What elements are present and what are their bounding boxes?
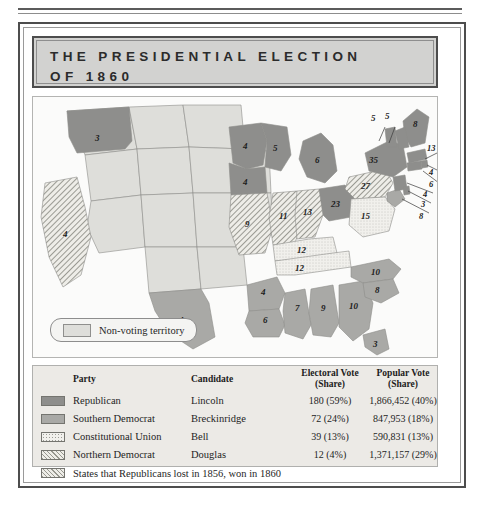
legend-party-name: Constitutional Union [73,428,191,446]
legend-header-row: Party Candidate Electoral Vote (Share) P… [33,366,437,392]
label-florida: 3 [372,339,378,349]
table-row: States that Republicans lost in 1856, wo… [33,464,437,482]
legend-swatch-cell [33,410,73,428]
state-arkansas [247,277,285,311]
label-indiana: 13 [303,207,313,217]
top-rule-thin [18,13,462,14]
flipped-states-swatch [41,468,65,478]
label-maryland: 8 [419,211,424,221]
label-california: 4 [62,229,68,239]
label-louisiana: 6 [263,315,268,325]
label-illinois: 11 [279,211,288,221]
title-line-2: OF 1860 [50,67,428,87]
label-ohio: 23 [330,199,341,209]
legend-swatch-cell [33,446,73,464]
title-box: THE PRESIDENTIAL ELECTION OF 1860 [32,36,438,88]
legend-popular-value: 590,831 (13%) [369,428,437,446]
legend-electoral-value: 72 (24%) [291,410,369,428]
label-new-york: 35 [368,155,379,165]
label-south-carolina: 8 [375,285,380,295]
legend-swatch-cell [33,392,73,410]
label-alabama: 9 [321,303,326,313]
non-voting-territory-key: Non-voting territory [50,318,197,342]
content-frame: THE PRESIDENTIAL ELECTION OF 1860 [18,22,466,488]
label-pennsylvania: 27 [360,181,371,191]
label-tennessee: 12 [295,263,305,273]
legend-party-header: Party [73,366,191,392]
label-missouri: 9 [245,219,250,229]
state-oregon [67,107,132,153]
label-new-jersey: 4 [422,189,427,199]
legend-electoral-header: Electoral Vote (Share) [291,366,369,392]
legend-candidate-name: Breckinridge [191,410,291,428]
legend-electoral-header-line1: Electoral Vote [291,368,369,379]
top-rule-thick [18,8,462,10]
label-georgia: 10 [349,301,359,311]
state-rhode-island [421,160,428,168]
label-massachusetts: 13 [427,143,436,153]
state-delaware [403,186,410,195]
republican-swatch [41,396,65,406]
legend-popular-header: Popular Vote (Share) [369,366,437,392]
label-arkansas: 4 [260,287,266,297]
table-row: Republican Lincoln 180 (59%) 1,866,452 (… [33,392,437,410]
state-missouri [229,193,273,255]
non-voting-swatch [63,324,91,337]
legend-party-name: Republican [73,392,191,410]
legend-popular-value: 1,866,452 (40%) [369,392,437,410]
legend-table: Party Candidate Electoral Vote (Share) P… [33,366,437,482]
label-new-hampshire: 5 [371,113,376,123]
label-iowa: 4 [242,177,248,187]
table-row: Constitutional Union Bell 39 (13%) 590,8… [33,428,437,446]
legend-popular-value: 1,371,157 (29%) [369,446,437,464]
legend-party-name: Southern Democrat [73,410,191,428]
label-minnesota: 4 [242,141,248,151]
title-line-1: THE PRESIDENTIAL ELECTION [50,47,428,67]
legend-candidate-name: Lincoln [191,392,291,410]
legend-electoral-value: 180 (59%) [291,392,369,410]
legend-candidate-name: Bell [191,428,291,446]
label-delaware: 3 [420,199,426,209]
table-row: Southern Democrat Breckinridge 72 (24%) … [33,410,437,428]
infographic-page: THE PRESIDENTIAL ELECTION OF 1860 [0,0,480,506]
label-kentucky: 12 [297,245,307,255]
label-mississippi: 7 [295,303,300,313]
page-title: THE PRESIDENTIAL ELECTION OF 1860 [50,47,428,87]
table-row: Northern Democrat Douglas 12 (4%) 1,371,… [33,446,437,464]
legend-table-panel: Party Candidate Electoral Vote (Share) P… [32,365,438,467]
state-connecticut [407,161,422,171]
label-wisconsin: 5 [273,143,278,153]
label-michigan: 6 [315,155,320,165]
non-voting-label: Non-voting territory [99,325,184,336]
legend-electoral-value: 39 (13%) [291,428,369,446]
legend-popular-value: 847,953 (18%) [369,410,437,428]
state-minnesota [229,123,267,169]
legend-candidate-name: Douglas [191,446,291,464]
label-maine: 8 [413,119,418,129]
legend-candidate-header: Candidate [191,366,291,392]
legend-popular-header-line1: Popular Vote [369,368,437,379]
legend-electoral-value: 12 (4%) [291,446,369,464]
state-mississippi [283,289,311,339]
label-connecticut: 6 [429,179,434,189]
label-oregon: 3 [94,133,100,143]
state-virginia [349,197,395,237]
label-vermont: 5 [385,111,390,121]
legend-swatch-cell [33,464,73,482]
southern-democrat-swatch [41,414,65,424]
legend-swatch-header [33,366,73,392]
legend-electoral-header-line2: (Share) [291,379,369,390]
label-rhode-island: 4 [428,167,433,177]
label-virginia: 15 [361,211,371,221]
legend-party-name: Northern Democrat [73,446,191,464]
legend-popular-header-line2: (Share) [369,379,437,390]
northern-democrat-swatch [41,450,65,460]
legend-swatch-cell [33,428,73,446]
constitutional-union-swatch [41,432,65,442]
label-north-carolina: 10 [371,267,381,277]
legend-note: States that Republicans lost in 1856, wo… [73,464,437,482]
